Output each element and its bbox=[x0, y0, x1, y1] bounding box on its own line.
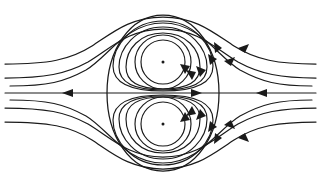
outer-upper-1-arrow bbox=[238, 44, 249, 53]
axis-arrow-left-outer bbox=[62, 89, 73, 97]
outer-lower-1-arrow bbox=[238, 133, 249, 142]
streamline-canvas bbox=[0, 0, 321, 186]
upper-outer-orbit-arrow-1 bbox=[196, 66, 206, 77]
outer-streamline-upper-3 bbox=[10, 23, 312, 86]
axis-arrow-left-right-side bbox=[256, 89, 267, 97]
outer-streamline-upper-2 bbox=[5, 29, 316, 78]
outer-streamline-lower-3 bbox=[10, 100, 312, 163]
vortex-streamline-figure bbox=[0, 0, 321, 186]
lower-outer-orbit-arrow-1 bbox=[196, 109, 206, 120]
outer-streamline-lower-2 bbox=[5, 108, 316, 157]
upper-vortex-center-dot bbox=[162, 61, 165, 64]
lower-vortex-center-dot bbox=[162, 123, 165, 126]
axis-arrow-right-inner bbox=[191, 89, 202, 97]
